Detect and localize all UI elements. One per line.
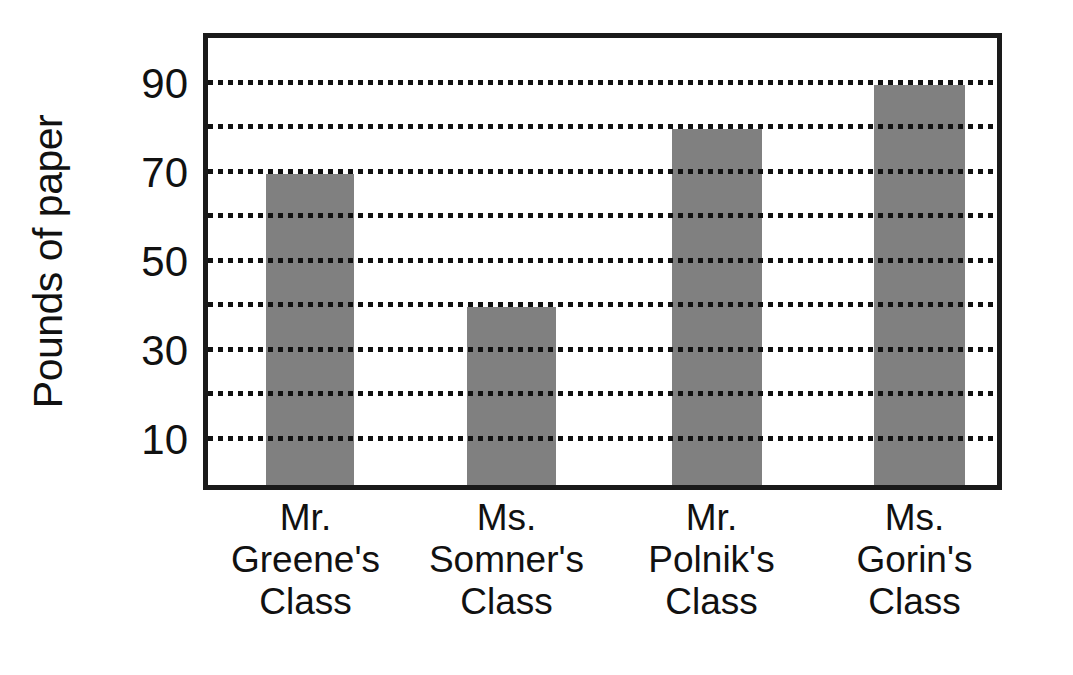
x-category-label-1: Mr. Greene's Class	[198, 497, 413, 623]
x-category-line-2b: Somner's	[399, 539, 614, 581]
bar-mr-polniks-class	[672, 129, 762, 485]
x-category-line-1c: Class	[198, 581, 413, 623]
x-category-line-3a: Mr.	[604, 497, 819, 539]
y-axis-title: Pounds of paper	[18, 33, 78, 490]
plot-area	[208, 38, 997, 485]
y-tick-label-10: 10	[92, 419, 188, 461]
bar-mr-greenes-class	[266, 174, 354, 486]
x-category-line-1b: Greene's	[198, 539, 413, 581]
bar-ms-gorins-class	[874, 85, 965, 486]
x-category-line-2c: Class	[399, 581, 614, 623]
plot-frame	[203, 33, 1002, 490]
bar-ms-somners-class	[467, 307, 556, 485]
y-tick-label-50: 50	[92, 241, 188, 283]
x-category-label-2: Ms. Somner's Class	[399, 497, 614, 623]
x-category-line-3b: Polnik's	[604, 539, 819, 581]
x-category-line-3c: Class	[604, 581, 819, 623]
y-tick-label-30: 30	[92, 330, 188, 372]
x-category-line-2a: Ms.	[399, 497, 614, 539]
x-category-line-1a: Mr.	[198, 497, 413, 539]
x-category-label-3: Mr. Polnik's Class	[604, 497, 819, 623]
x-category-line-4c: Class	[807, 581, 1022, 623]
bar-chart: Pounds of paper 90 70 50 30 10	[0, 0, 1073, 675]
x-category-line-4a: Ms.	[807, 497, 1022, 539]
y-axis-tick-labels: 90 70 50 30 10	[88, 0, 188, 675]
y-tick-label-90: 90	[92, 63, 188, 105]
x-category-line-4b: Gorin's	[807, 539, 1022, 581]
y-tick-label-70: 70	[92, 152, 188, 194]
x-category-label-4: Ms. Gorin's Class	[807, 497, 1022, 623]
x-axis-labels: Mr. Greene's Class Ms. Somner's Class Mr…	[203, 497, 1002, 637]
